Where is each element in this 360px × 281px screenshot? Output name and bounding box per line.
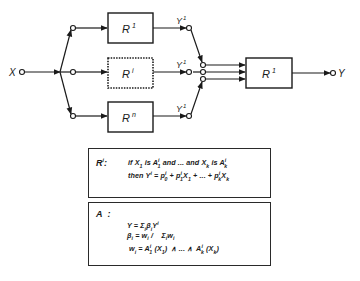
rule-n-output-label: Y1 xyxy=(176,103,186,114)
rule-1-output-label: Y1 xyxy=(176,15,186,26)
rule-block-n xyxy=(108,102,153,132)
rule-n-label: Rn xyxy=(122,111,136,124)
rule-block-1 xyxy=(108,13,153,43)
branch-wire-top xyxy=(60,30,71,72)
converge-wire-top xyxy=(191,30,202,62)
fuzzy-model-block-diagram: X Y R1 Ri Rn Y1 Y1 Y1 R1 xyxy=(0,0,360,140)
merge-node-3 xyxy=(201,77,206,82)
aggregation-definition-box: A : Y = ΣiβiYi βi = wi / Σiwi wi = Ai1 (… xyxy=(88,202,271,266)
rule-i-label: Ri xyxy=(122,67,134,80)
branch-node-top xyxy=(71,26,76,31)
aggregation-firing-strength: wi = Ai1 (X1) ∧ ... ∧ Aik (Xk) xyxy=(129,243,219,255)
rule-output-node-1 xyxy=(187,26,192,31)
rule-consequent: then Yi = pi0 + pi1X1 + ... + pikXk xyxy=(128,170,229,182)
rule-premise: if X1 is Ai1 and ... and Xk is Aik xyxy=(128,157,227,169)
rule-output-node-n xyxy=(187,114,192,119)
aggregator-label: R1 xyxy=(262,67,276,80)
input-terminal xyxy=(20,70,25,75)
rule-1-label: R1 xyxy=(122,22,136,35)
rule-definition-label: Ri: xyxy=(96,157,107,168)
branch-node-bottom xyxy=(71,114,76,119)
branch-wire-bottom xyxy=(60,72,71,114)
branch-node-middle xyxy=(71,70,76,75)
rule-output-node-i xyxy=(187,70,192,75)
merge-node-2 xyxy=(201,70,206,75)
converge-wire-bottom xyxy=(191,82,202,114)
output-terminal xyxy=(331,71,336,76)
merge-node-1 xyxy=(201,63,206,68)
input-label: X xyxy=(8,67,16,78)
rule-block-i xyxy=(108,58,153,88)
aggregation-weight-normalization: βi = wi / Σiwi xyxy=(127,231,175,241)
output-label: Y xyxy=(338,68,346,79)
aggregation-definition-label: A : xyxy=(96,209,111,219)
rule-definition-box: Ri: if X1 is Ai1 and ... and Xk is Aik t… xyxy=(88,148,271,198)
rule-i-output-label: Y1 xyxy=(176,59,186,70)
